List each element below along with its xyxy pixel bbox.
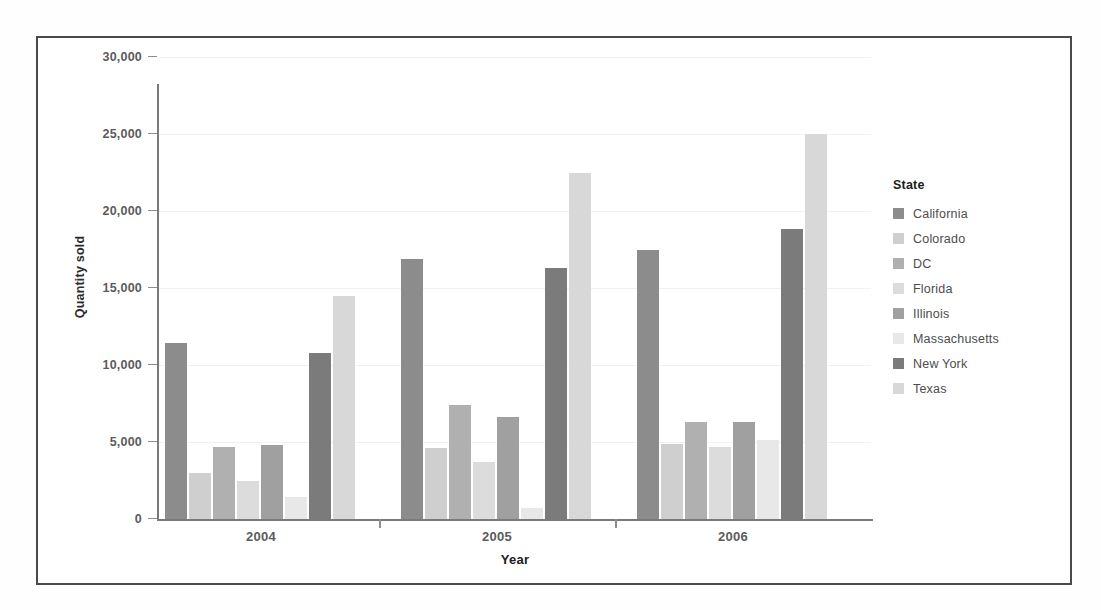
legend-item[interactable]: DC xyxy=(893,251,1063,276)
y-axis-tick-label: 25,000 xyxy=(103,127,142,141)
bar xyxy=(497,417,519,519)
y-axis-tick-mark xyxy=(148,518,157,519)
bar xyxy=(637,250,659,520)
legend-item[interactable]: Colorado xyxy=(893,226,1063,251)
legend-swatch-icon xyxy=(893,233,904,244)
legend-swatch-icon xyxy=(893,283,904,294)
legend-item[interactable]: Texas xyxy=(893,376,1063,401)
legend-swatch-icon xyxy=(893,258,904,269)
chart-frame: Quantity sold 05,00010,00015,00020,00025… xyxy=(36,36,1072,585)
y-axis-tick-mark xyxy=(148,56,157,57)
y-axis-tick-mark xyxy=(148,441,157,442)
bar xyxy=(685,422,707,519)
bar xyxy=(733,422,755,519)
legend-item-label: Colorado xyxy=(913,232,965,246)
y-axis-ticks: 05,00010,00015,00020,00025,00030,000 xyxy=(38,74,157,587)
bar xyxy=(401,259,423,519)
x-axis-group-separator xyxy=(615,519,617,528)
y-axis-tick-mark xyxy=(148,287,157,288)
bar xyxy=(285,497,307,519)
y-axis-tick-label: 30,000 xyxy=(103,50,142,64)
legend-item[interactable]: California xyxy=(893,201,1063,226)
legend-swatch-icon xyxy=(893,333,904,344)
legend: State CaliforniaColoradoDCFloridaIllinoi… xyxy=(893,178,1063,401)
bar xyxy=(213,447,235,519)
bar xyxy=(521,508,543,519)
bar xyxy=(425,448,447,519)
legend-items: CaliforniaColoradoDCFloridaIllinoisMassa… xyxy=(893,201,1063,401)
bar xyxy=(309,353,331,519)
bar xyxy=(709,447,731,519)
legend-item-label: Massachusetts xyxy=(913,332,999,346)
guideline xyxy=(159,365,871,366)
y-axis-tick: 15,000 xyxy=(103,281,157,295)
y-axis-tick-mark xyxy=(148,364,157,365)
y-axis-tick: 0 xyxy=(135,512,157,526)
legend-item[interactable]: Massachusetts xyxy=(893,326,1063,351)
y-axis-tick-label: 10,000 xyxy=(103,358,142,372)
bar xyxy=(237,481,259,520)
y-axis-tick: 20,000 xyxy=(103,204,157,218)
y-axis-tick: 25,000 xyxy=(103,127,157,141)
legend-title: State xyxy=(893,178,1063,192)
x-axis-title: Year xyxy=(157,552,873,567)
guideline xyxy=(159,288,871,289)
legend-item-label: Florida xyxy=(913,282,953,296)
legend-item-label: California xyxy=(913,207,968,221)
legend-item-label: DC xyxy=(913,257,931,271)
y-axis-tick-label: 15,000 xyxy=(103,281,142,295)
legend-item-label: Texas xyxy=(913,382,947,396)
legend-item-label: Illinois xyxy=(913,307,949,321)
legend-swatch-icon xyxy=(893,383,904,394)
x-axis-group-label: 2006 xyxy=(637,529,829,544)
legend-item[interactable]: Illinois xyxy=(893,301,1063,326)
y-axis-tick: 10,000 xyxy=(103,358,157,372)
x-axis-group-separator xyxy=(379,519,381,528)
bar xyxy=(661,444,683,519)
x-axis-line xyxy=(157,519,873,521)
y-axis-tick-label: 20,000 xyxy=(103,204,142,218)
guideline xyxy=(159,57,871,58)
y-axis-tick-mark xyxy=(148,133,157,134)
bar xyxy=(165,343,187,519)
legend-item-label: New York xyxy=(913,357,967,371)
guideline xyxy=(159,211,871,212)
bar xyxy=(473,462,495,519)
x-axis-group-label: 2004 xyxy=(165,529,357,544)
legend-item[interactable]: Florida xyxy=(893,276,1063,301)
bar xyxy=(781,229,803,519)
bar xyxy=(545,268,567,519)
legend-item[interactable]: New York xyxy=(893,351,1063,376)
bar xyxy=(449,405,471,519)
y-axis-tick-label: 5,000 xyxy=(110,435,142,449)
chart-screenshot: Quantity sold 05,00010,00015,00020,00025… xyxy=(0,0,1101,610)
y-axis-tick-mark xyxy=(148,210,157,211)
bar xyxy=(569,173,591,520)
legend-swatch-icon xyxy=(893,208,904,219)
bar xyxy=(189,473,211,519)
legend-swatch-icon xyxy=(893,358,904,369)
bar xyxy=(757,440,779,519)
bar xyxy=(805,134,827,519)
guideline xyxy=(159,442,871,443)
guideline xyxy=(159,134,871,135)
y-axis-tick: 5,000 xyxy=(110,435,157,449)
y-axis-tick: 30,000 xyxy=(103,50,157,64)
x-axis-group-label: 2005 xyxy=(401,529,593,544)
bar xyxy=(333,296,355,519)
legend-swatch-icon xyxy=(893,308,904,319)
y-axis-tick-label: 0 xyxy=(135,512,142,526)
bar xyxy=(261,445,283,519)
y-axis-line xyxy=(157,84,159,520)
